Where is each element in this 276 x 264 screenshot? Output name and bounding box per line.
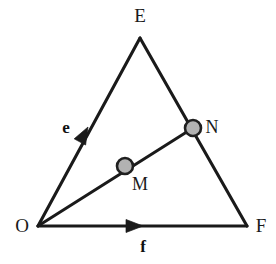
node-label-n: N — [206, 117, 219, 137]
vector-label-e: e — [62, 118, 70, 137]
diagram-canvas: E O F M N e f — [0, 0, 276, 264]
vector-label-f: f — [140, 237, 146, 256]
node-n-dot — [185, 120, 201, 136]
vector-triangle-diagram: E O F M N e f — [0, 0, 276, 264]
node-m-dot — [117, 158, 133, 174]
node-label-m: M — [132, 174, 148, 194]
arrowhead-vector-f-icon — [126, 220, 143, 233]
vertex-label-f: F — [256, 215, 267, 236]
vertex-label-o: O — [15, 215, 29, 236]
arrowhead-vector-e-icon — [74, 127, 88, 145]
ray-origin-to-node-n — [38, 128, 193, 226]
edge-origin-to-apex — [38, 38, 140, 226]
vertex-label-e: E — [134, 5, 146, 26]
